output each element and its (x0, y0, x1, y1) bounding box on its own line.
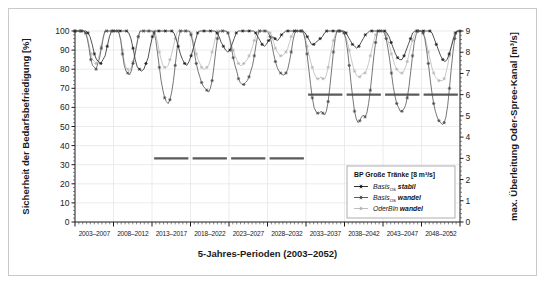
x-tick-label: 2048–2052 (425, 230, 457, 237)
series-marker (105, 30, 108, 33)
series-marker (258, 30, 261, 33)
y-tick-label: 60 (60, 102, 70, 112)
y2-tick-label: 4 (466, 132, 471, 142)
series-marker (241, 30, 244, 33)
x-tick-label: 2003–2007 (79, 230, 111, 237)
series-marker (221, 30, 224, 33)
series-marker (209, 30, 212, 33)
series-marker (222, 45, 225, 48)
series-marker (157, 30, 160, 33)
y2-tick-label: 0 (466, 217, 471, 227)
y-tick-label: 50 (60, 122, 70, 132)
y2-tick-label: 9 (466, 26, 471, 36)
series-marker (247, 54, 250, 57)
legend-title: BP Große Tränke [8 m³/s] (354, 171, 435, 179)
series-marker (184, 30, 187, 33)
y2-axis-title: max. Überleitung Oder-Spree-Kanal [m³/s] (508, 32, 519, 221)
y-tick-label: 70 (60, 83, 70, 93)
series-marker (263, 30, 266, 33)
y2-tick-label: 5 (466, 111, 471, 121)
y-tick-label: 100 (55, 26, 69, 36)
x-tick-label: 2013–2017 (156, 230, 188, 237)
x-tick-label: 2008–2012 (117, 230, 149, 237)
series-marker (248, 30, 251, 33)
y-tick-label: 0 (65, 217, 70, 227)
y-tick-label: 80 (60, 64, 70, 74)
x-tick-label: 2038–2042 (348, 230, 380, 237)
series-marker (202, 30, 205, 33)
x-tick-label: 2043–2047 (387, 230, 419, 237)
y2-tick-label: 7 (466, 68, 471, 78)
y-tick-label: 10 (60, 198, 70, 208)
x-axis-title: 5-Jahres-Perioden (2003–2052) (198, 248, 337, 259)
y2-tick-label: 6 (466, 90, 471, 100)
series-marker (379, 30, 382, 33)
x-tick-label: 2023–2027 (233, 230, 265, 237)
series-marker (331, 30, 334, 33)
y2-tick-label: 1 (466, 196, 471, 206)
series-marker (118, 30, 121, 33)
x-tick-label: 2028–2032 (271, 230, 303, 237)
legend: BP Große Tränke [8 m³/s]BasisOS stabilBa… (347, 166, 455, 218)
series-marker (142, 30, 145, 33)
x-tick-label: 2018–2022 (194, 230, 226, 237)
series-marker (164, 30, 167, 33)
series-marker (79, 30, 82, 33)
chart-canvas: 010203040506070809010001234567892003–200… (9, 9, 536, 275)
figure-frame: 010203040506070809010001234567892003–200… (8, 8, 537, 276)
series-marker (147, 30, 150, 33)
x-tick-label: 2033–2037 (310, 230, 342, 237)
y2-tick-label: 8 (466, 47, 471, 57)
series-marker (286, 30, 289, 33)
y-tick-label: 30 (60, 160, 70, 170)
series-marker (370, 30, 373, 33)
legend-entry-label: OderBln wandel (373, 205, 423, 212)
y2-tick-label: 2 (466, 175, 471, 185)
y-tick-label: 90 (60, 45, 70, 55)
series-marker (363, 72, 366, 75)
y-tick-label: 40 (60, 141, 70, 151)
y-axis-title: Sicherheit der Bedarfsbefriedigung [%] (20, 38, 31, 214)
y2-tick-label: 3 (466, 153, 471, 163)
y-tick-label: 20 (60, 179, 70, 189)
